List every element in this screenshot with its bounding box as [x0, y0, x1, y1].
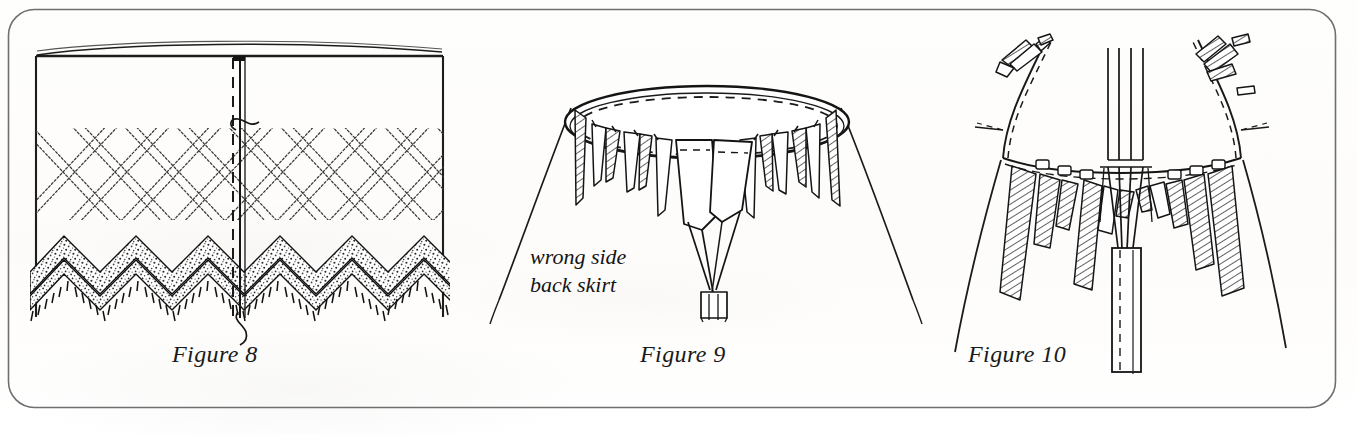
- figure-9-caption: Figure 9: [640, 341, 726, 368]
- fig10-center-back-placket: [1112, 248, 1141, 374]
- scanned-page: wrong side back skirt Figure 8 Figure 9 …: [0, 0, 1357, 435]
- figure-10-illustration: [0, 0, 1357, 435]
- fig10-pleat-flaps-right: [1136, 166, 1244, 296]
- figure-8-caption: Figure 8: [172, 341, 258, 368]
- figure-9-annotation: wrong side back skirt: [530, 243, 626, 299]
- fig10-top-flaps-right: [1196, 34, 1255, 95]
- annotation-line-1: wrong side: [530, 243, 626, 271]
- figure-10-caption: Figure 10: [968, 341, 1066, 368]
- fig10-waistline-seam: [1003, 158, 1241, 179]
- annotation-line-2: back skirt: [530, 271, 626, 299]
